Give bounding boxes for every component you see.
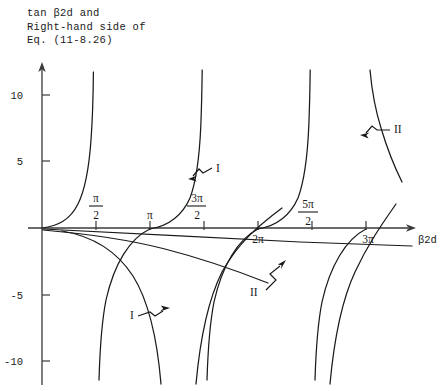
label-II-upper: II: [394, 123, 402, 135]
tan-branch-6: [315, 229, 366, 380]
leader-II-lower-arrowhead: [278, 260, 286, 269]
plot-canvas: β2d 10 5 -5 -10 π 2 π 3π: [0, 0, 441, 391]
x-tick-label-3pi-over-2-numerator: 3π: [191, 192, 203, 204]
x-tick-label-3pi-over-2-denominator: 2: [194, 209, 200, 221]
leader-I-lower: [138, 306, 170, 317]
x-tick-label-pi-over-2-denominator: 2: [93, 209, 99, 221]
y-tick-label-5: 5: [17, 156, 23, 168]
figure-tan-beta2d-plot: tan β2d and Right-hand side of Eq. (11-8…: [0, 0, 441, 391]
x-tick-label-2pi: 2π: [252, 233, 264, 245]
x-tick-label-pi-over-2-numerator: π: [93, 192, 99, 204]
rhs-branch-descend-1: [62, 231, 161, 384]
leader-I-upper: [188, 168, 212, 181]
label-II-lower: II: [250, 286, 258, 298]
leader-II-upper: [360, 126, 390, 138]
rhs-branch-shallow-2: [43, 230, 268, 283]
x-axis-title: β2d: [418, 234, 437, 246]
rhs-branch-rise-1: [196, 208, 282, 384]
y-tick-label-10: 10: [10, 90, 23, 102]
x-tick-group: π 2 π 3π 2 2π 5π 2 3π: [89, 192, 374, 245]
tan-branch-3: [150, 70, 202, 229]
x-tick-label-5pi-over-2-denominator: 2: [305, 215, 311, 227]
tan-branch-2: [99, 229, 150, 380]
x-tick-label-5pi-over-2-numerator: 5π: [302, 198, 314, 210]
y-tick-label-minus5: -5: [10, 290, 23, 302]
leader-II-upper-arrowhead: [360, 133, 370, 139]
label-I-lower: I: [130, 309, 134, 321]
leader-I-lower-arrowhead: [160, 306, 170, 312]
y-tick-label-minus10: -10: [4, 356, 23, 368]
tan-branch-4: [207, 229, 258, 380]
axis-group: β2d: [28, 62, 437, 385]
label-I-upper: I: [216, 162, 220, 174]
leader-II-lower: [266, 260, 286, 290]
x-tick-label-pi: π: [147, 209, 153, 221]
series-II-rhs-curves: [43, 70, 412, 384]
